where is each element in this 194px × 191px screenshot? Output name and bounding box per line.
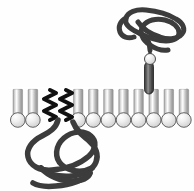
- lipid-tail: [134, 89, 144, 116]
- lipid-tail: [164, 89, 174, 116]
- lipid-head: [177, 113, 192, 128]
- lipid-head: [146, 113, 161, 128]
- lipid-tail: [179, 89, 189, 116]
- lipid-head: [26, 113, 41, 128]
- transmembrane-domain: [145, 50, 156, 94]
- lipid-head: [101, 113, 116, 128]
- lipid-head: [162, 113, 177, 128]
- lipid-head: [116, 113, 131, 128]
- membrane-protein-diagram: [0, 0, 194, 191]
- lipid-head: [131, 113, 146, 128]
- lipid-head: [86, 113, 101, 128]
- lipid-tail: [89, 89, 99, 116]
- lipid-tail: [73, 89, 83, 116]
- lipid-tail: [119, 89, 129, 116]
- linker-junction-head: [145, 54, 156, 65]
- lipid-tail: [104, 89, 114, 116]
- diagram-canvas: [0, 0, 194, 191]
- lipid-head: [10, 113, 25, 128]
- lipid-tail: [13, 89, 22, 116]
- lipid-tail: [28, 89, 38, 116]
